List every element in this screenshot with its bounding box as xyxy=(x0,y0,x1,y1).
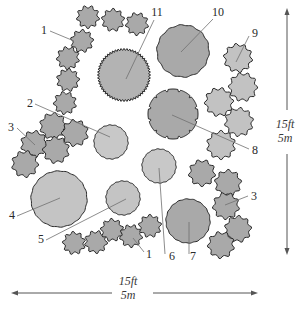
tree-11 xyxy=(97,48,150,101)
horizontal-scale: 15ft 5m xyxy=(11,274,258,302)
plant-label-5: 5 xyxy=(38,232,44,246)
shrub-dark xyxy=(53,92,76,115)
tree-5 xyxy=(106,181,140,215)
tree-2 xyxy=(94,125,128,159)
arrow-left-icon xyxy=(11,291,18,296)
plant-label-3: 3 xyxy=(8,120,14,134)
shrub-dark xyxy=(57,68,80,91)
plant-label-6: 6 xyxy=(169,249,175,263)
tree-6 xyxy=(142,149,176,183)
shrub-light xyxy=(207,130,235,159)
shrub-light xyxy=(225,107,254,136)
vertical-scale-ft: 15ft xyxy=(276,117,295,131)
plant-label-8: 8 xyxy=(252,143,258,157)
shrub-dark xyxy=(189,160,216,187)
plant-label-9: 9 xyxy=(252,26,258,40)
shrub-dark xyxy=(212,193,239,220)
plant-label-4: 4 xyxy=(9,208,15,222)
plant-label-2: 2 xyxy=(27,96,33,110)
arrow-up-icon xyxy=(285,8,290,15)
shrub-dark xyxy=(77,6,100,29)
shrub-dark xyxy=(215,169,242,196)
shrub-dark xyxy=(139,214,162,237)
shrub-dark xyxy=(125,13,148,36)
tree-8 xyxy=(148,89,198,139)
arrow-right-icon xyxy=(251,291,258,296)
horizontal-scale-m: 5m xyxy=(121,288,136,302)
plant-label-7: 7 xyxy=(190,249,196,263)
shrub-light xyxy=(204,88,233,117)
shrub-dark xyxy=(56,47,79,70)
plant-label-10: 10 xyxy=(212,5,224,19)
vertical-scale-m: 5m xyxy=(278,131,293,145)
planting-plan-diagram: 112334567891011 15ft 5m 15ft 5m xyxy=(0,0,296,316)
shrub-dark xyxy=(61,120,88,147)
tree-10 xyxy=(157,25,210,78)
arrow-down-icon xyxy=(285,248,290,255)
shrub-dark xyxy=(102,8,125,31)
shrub-light xyxy=(228,73,257,101)
horizontal-scale-ft: 15ft xyxy=(119,274,138,288)
plant-label-1: 1 xyxy=(41,23,47,37)
plant-label-1b: 1 xyxy=(146,247,152,261)
shrub-dark xyxy=(62,231,85,254)
leader-line-1 xyxy=(50,31,74,41)
vertical-scale: 15ft 5m xyxy=(276,8,295,255)
tree-4 xyxy=(31,171,87,227)
plant-label-3b: 3 xyxy=(251,189,257,203)
tree-7 xyxy=(166,199,210,243)
plant-label-11: 11 xyxy=(151,5,163,19)
